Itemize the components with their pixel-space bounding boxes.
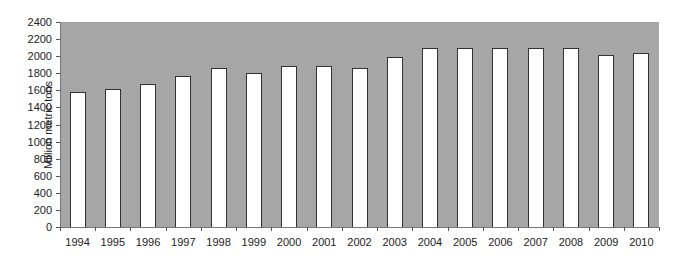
- bar-1996: [140, 84, 156, 228]
- y-tick-label: 1000: [28, 136, 52, 148]
- x-tick-label: 2002: [347, 236, 371, 248]
- y-tick-mark: [56, 22, 60, 23]
- y-tick-label: 1200: [28, 119, 52, 131]
- y-tick-label: 2000: [28, 50, 52, 62]
- bar-1997: [175, 76, 191, 227]
- bar-1999: [246, 73, 262, 227]
- y-tick-mark: [56, 176, 60, 177]
- x-tick-mark: [342, 227, 343, 231]
- x-tick-mark: [518, 227, 519, 231]
- x-tick-label: 1997: [171, 236, 195, 248]
- bar-2000: [281, 66, 297, 227]
- y-tick-mark: [56, 210, 60, 211]
- x-tick-label: 2005: [453, 236, 477, 248]
- y-tick-mark: [56, 159, 60, 160]
- y-tick-label: 600: [34, 170, 52, 182]
- y-tick-label: 800: [34, 153, 52, 165]
- x-tick-label: 2001: [312, 236, 336, 248]
- x-tick-label: 2009: [594, 236, 618, 248]
- x-tick-label: 2003: [382, 236, 406, 248]
- x-tick-mark: [130, 227, 131, 231]
- y-tick-label: 1400: [28, 101, 52, 113]
- bar-2007: [528, 48, 544, 227]
- bar-1994: [70, 92, 86, 227]
- x-tick-label: 1998: [206, 236, 230, 248]
- bar-2008: [563, 48, 579, 227]
- y-tick-mark: [56, 142, 60, 143]
- x-tick-mark: [307, 227, 308, 231]
- y-tick-label: 400: [34, 187, 52, 199]
- bar-2002: [352, 68, 368, 227]
- y-tick-label: 2400: [28, 16, 52, 28]
- y-tick-mark: [56, 90, 60, 91]
- x-tick-label: 2007: [523, 236, 547, 248]
- x-tick-mark: [483, 227, 484, 231]
- x-tick-mark: [377, 227, 378, 231]
- x-tick-label: 2006: [488, 236, 512, 248]
- x-tick-mark: [589, 227, 590, 231]
- x-tick-label: 1994: [65, 236, 89, 248]
- x-tick-mark: [201, 227, 202, 231]
- y-axis-line: [60, 22, 61, 227]
- bar-1998: [211, 68, 227, 227]
- x-tick-mark: [166, 227, 167, 231]
- y-tick-label: 0: [46, 221, 52, 233]
- x-tick-mark: [624, 227, 625, 231]
- y-tick-mark: [56, 125, 60, 126]
- y-tick-mark: [56, 107, 60, 108]
- y-tick-mark: [56, 193, 60, 194]
- x-tick-mark: [412, 227, 413, 231]
- x-tick-label: 1996: [136, 236, 160, 248]
- bar-2001: [316, 66, 332, 227]
- x-tick-mark: [448, 227, 449, 231]
- bar-2010: [633, 53, 649, 227]
- y-tick-mark: [56, 73, 60, 74]
- y-tick-label: 1800: [28, 67, 52, 79]
- bar-2009: [598, 55, 614, 227]
- x-tick-label: 2000: [277, 236, 301, 248]
- x-tick-label: 2008: [559, 236, 583, 248]
- x-tick-mark: [659, 227, 660, 231]
- bar-2005: [457, 48, 473, 227]
- x-tick-label: 2010: [629, 236, 653, 248]
- y-tick-label: 200: [34, 204, 52, 216]
- x-tick-mark: [236, 227, 237, 231]
- bar-2003: [387, 57, 403, 227]
- x-tick-mark: [60, 227, 61, 231]
- bar-2006: [492, 48, 508, 227]
- y-tick-mark: [56, 39, 60, 40]
- x-axis-line: [60, 227, 659, 228]
- y-tick-label: 2200: [28, 33, 52, 45]
- x-tick-label: 1995: [101, 236, 125, 248]
- bar-2004: [422, 48, 438, 227]
- y-tick-label: 1600: [28, 84, 52, 96]
- x-tick-label: 2004: [418, 236, 442, 248]
- x-tick-mark: [271, 227, 272, 231]
- x-tick-label: 1999: [242, 236, 266, 248]
- x-tick-mark: [553, 227, 554, 231]
- y-tick-mark: [56, 56, 60, 57]
- bar-chart: Million metric tons 02004006008001000120…: [0, 0, 675, 263]
- bar-1995: [105, 89, 121, 227]
- x-tick-mark: [95, 227, 96, 231]
